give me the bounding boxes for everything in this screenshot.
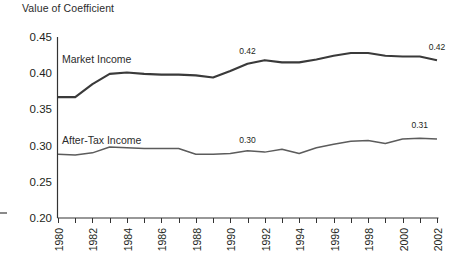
x-tick-label: 1998 <box>363 228 375 252</box>
y-tick-label: 0.20 <box>30 212 52 224</box>
y-tick-labels: 0.200.250.300.350.400.45 <box>30 31 52 224</box>
x-tick-label: 2000 <box>398 228 410 252</box>
series-inline-label: Market Income <box>62 53 132 65</box>
data-point-label: 0.30 <box>239 135 256 145</box>
x-tick-label: 1988 <box>191 228 203 252</box>
x-tick-label: 1996 <box>329 228 341 252</box>
data-point-label: 0.31 <box>411 120 428 130</box>
x-tick-label: 1990 <box>225 228 237 252</box>
data-point-label: 0.42 <box>429 42 446 52</box>
series-inline-labels: Market IncomeAfter-Tax Income <box>62 53 142 146</box>
y-tick-label: 0.40 <box>30 67 52 79</box>
series-inline-label: After-Tax Income <box>62 134 142 146</box>
y-tick-label: 0.30 <box>30 140 52 152</box>
x-tick-label: 1994 <box>294 228 306 252</box>
y-axis-group: 0.200.250.300.350.400.45 <box>30 31 58 224</box>
x-tick-label: 1986 <box>156 228 168 252</box>
x-tick-label: 1984 <box>122 228 134 252</box>
x-tick-label: 2002 <box>432 228 444 252</box>
x-tick-labels: 1980198219841986198819901992199419961998… <box>53 228 444 252</box>
x-tick-label: 1992 <box>260 228 272 252</box>
y-tick-label: 0.45 <box>30 31 52 43</box>
y-tick-label: 0.25 <box>30 176 52 188</box>
x-axis-group: 1980198219841986198819901992199419961998… <box>53 218 444 251</box>
x-tick-label: 1982 <box>87 228 99 252</box>
data-point-label: 0.42 <box>239 46 256 56</box>
x-tick-label: 1980 <box>53 228 65 252</box>
line-chart-plot: 0.200.250.300.350.400.45 198019821984198… <box>0 0 460 269</box>
chart-container: Value of Coefficient 0.200.250.300.350.4… <box>0 0 460 269</box>
x-ticks <box>59 218 438 223</box>
y-tick-label: 0.35 <box>30 103 52 115</box>
